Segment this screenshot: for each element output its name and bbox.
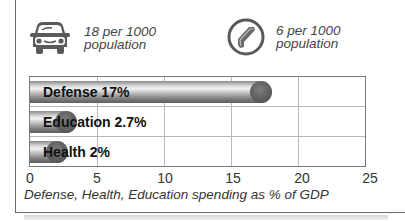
x-axis-caption: Defense, Health, Education spending as %… xyxy=(24,187,329,202)
panel-shadow xyxy=(24,215,388,220)
bar-label-defense: Defense 17% xyxy=(43,81,129,103)
x-tick-15: 15 xyxy=(225,170,241,186)
x-tick-20: 20 xyxy=(294,170,310,186)
x-tick-25: 25 xyxy=(362,170,378,186)
gridline-row-1 xyxy=(30,106,365,107)
stat-car-text: 18 per 1000 population xyxy=(84,25,156,51)
stat-car: 18 per 1000 population xyxy=(28,20,156,56)
bar-cap xyxy=(250,81,272,103)
stat-phone: 6 per 1000 population xyxy=(226,17,341,57)
car-icon xyxy=(28,20,72,56)
stat-car-unit: population xyxy=(84,38,156,51)
stat-phone-unit: population xyxy=(276,37,341,50)
bar-chart-plot: Defense 17% Education 2.7% Health 2% xyxy=(29,76,366,167)
stat-phone-text: 6 per 1000 population xyxy=(276,24,341,50)
gridline-x-20 xyxy=(298,77,299,166)
x-tick-5: 5 xyxy=(93,170,101,186)
bar-label-education: Education 2.7% xyxy=(43,111,146,133)
phone-icon xyxy=(226,17,266,57)
x-tick-0: 0 xyxy=(26,170,34,186)
bar-label-health: Health 2% xyxy=(43,141,110,163)
gridline-row-2 xyxy=(30,136,365,137)
x-tick-10: 10 xyxy=(157,170,173,186)
